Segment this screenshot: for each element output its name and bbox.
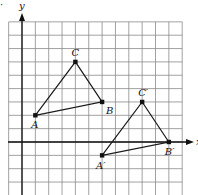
coordinate-plane-figure: · x y ABCA′B′C′ <box>0 0 198 195</box>
vertex-label: A <box>30 119 38 130</box>
triangles: ABCA′B′C′ <box>30 47 175 171</box>
triangle-abc-prime: A′B′C′ <box>95 87 175 171</box>
x-axis-arrow-icon <box>186 139 194 145</box>
vertex-label: C′ <box>138 87 149 98</box>
corner-mark: · <box>0 0 3 10</box>
vertex-label: C <box>71 47 79 58</box>
x-axis-label: x <box>196 136 198 147</box>
y-axis-label: y <box>18 0 25 11</box>
vertex-point <box>33 113 37 117</box>
vertex-label: A′ <box>95 160 106 171</box>
y-axis-arrow-icon <box>19 13 25 21</box>
vertex-label: B <box>105 105 113 116</box>
vertex-point <box>73 60 77 64</box>
vertex-point <box>100 153 104 157</box>
vertex-point <box>167 140 171 144</box>
vertex-label: B′ <box>164 146 175 157</box>
vertex-point <box>100 100 104 104</box>
vertex-point <box>140 100 144 104</box>
